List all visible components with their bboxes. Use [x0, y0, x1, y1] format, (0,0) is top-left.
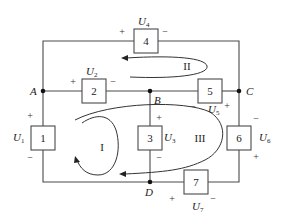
u2-plus: +	[70, 76, 76, 87]
loop-iii-label: III	[195, 132, 206, 144]
element-1: 1	[31, 126, 55, 150]
u7-minus: −	[210, 193, 216, 204]
u2-label: U2	[86, 65, 98, 79]
node-a-dot	[41, 89, 46, 94]
element-3: 3	[138, 126, 162, 150]
node-b-label: B	[154, 94, 161, 106]
element-5-label: 5	[207, 85, 213, 97]
element-3-label: 3	[147, 132, 153, 144]
u7-plus: +	[169, 193, 175, 204]
element-2-label: 2	[91, 85, 97, 97]
node-b-dot	[148, 89, 153, 94]
element-4-label: 4	[143, 35, 149, 47]
u3-label: U3	[164, 131, 176, 145]
loop-i-arrow	[74, 156, 80, 163]
element-6-label: 6	[236, 132, 242, 144]
element-1-label: 1	[40, 132, 46, 144]
u6-minus: −	[253, 113, 259, 124]
u1-plus: +	[27, 110, 33, 121]
u4-plus: +	[119, 26, 125, 37]
u4-label: U4	[138, 15, 150, 29]
u5-minus: −	[190, 101, 196, 112]
element-2: 2	[82, 79, 106, 103]
element-4: 4	[134, 29, 158, 53]
loop-i-path	[77, 117, 118, 175]
element-6: 6	[227, 126, 251, 150]
u6-plus: +	[253, 151, 259, 162]
node-d-dot	[148, 180, 153, 185]
u3-plus: +	[156, 112, 162, 123]
u2-minus: −	[110, 76, 116, 87]
element-7-label: 7	[193, 176, 199, 188]
u4-minus: −	[162, 26, 168, 37]
wire-1-d	[43, 150, 150, 182]
node-c-dot	[237, 89, 242, 94]
loop-ii-label: II	[183, 60, 191, 72]
element-5: 5	[198, 79, 222, 103]
node-a-label: A	[29, 85, 37, 97]
u5-plus: +	[224, 100, 230, 111]
u6-label: U6	[259, 131, 271, 145]
u7-label: U7	[192, 200, 204, 214]
element-7: 7	[184, 170, 208, 194]
u1-minus: −	[27, 152, 33, 163]
u5-label: U5	[208, 103, 220, 117]
circuit-diagram: 1 2 3 4 5 6 7 A B C D U1 U2 U3 U4	[0, 0, 283, 224]
loop-i-label: I	[100, 141, 104, 153]
loop-ii-path	[126, 57, 207, 78]
u3-minus: −	[156, 152, 162, 163]
loop-ii-arrow	[121, 55, 128, 61]
loop-iii-arrow	[119, 171, 126, 177]
node-c-label: C	[246, 85, 254, 97]
u1-label: U1	[13, 131, 25, 145]
node-d-label: D	[144, 186, 153, 198]
